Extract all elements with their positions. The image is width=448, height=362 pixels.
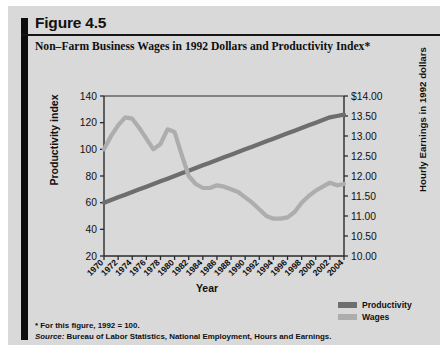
svg-text:60: 60 bbox=[86, 197, 98, 208]
y-ticks-left: 20406080100120140 bbox=[80, 91, 104, 262]
svg-text:80: 80 bbox=[86, 171, 98, 182]
svg-text:12.00: 12.00 bbox=[351, 171, 377, 182]
y-ticks-right: 10.0010.5011.0011.5012.0012.5013.0013.50… bbox=[344, 91, 383, 262]
legend-swatch-productivity bbox=[338, 302, 357, 308]
legend-label-productivity: Productivity bbox=[362, 300, 412, 310]
source-label: Source: bbox=[35, 332, 64, 341]
footnote-source: Source: Bureau of Labor Statistics, Nati… bbox=[35, 332, 425, 343]
svg-text:11.50: 11.50 bbox=[351, 191, 376, 202]
figure-footnotes: * For this figure, 1992 = 100. Source: B… bbox=[35, 321, 425, 342]
svg-text:13.50: 13.50 bbox=[351, 111, 377, 122]
chart-svg: 20406080100120140 10.0010.5011.0011.5012… bbox=[32, 86, 436, 301]
svg-text:10.50: 10.50 bbox=[351, 231, 377, 242]
svg-text:13.00: 13.00 bbox=[351, 131, 377, 142]
accent-bar bbox=[21, 18, 28, 340]
series-group bbox=[104, 115, 344, 219]
svg-text:$14.00: $14.00 bbox=[351, 91, 383, 102]
svg-text:11.00: 11.00 bbox=[351, 211, 376, 222]
figure-card: Figure 4.5 Non–Farm Business Wages in 19… bbox=[8, 6, 440, 345]
svg-text:100: 100 bbox=[80, 144, 97, 155]
chart-plot-area: Productivity index Hourly Earnings in 19… bbox=[32, 86, 436, 301]
figure-title: Non–Farm Business Wages in 1992 Dollars … bbox=[35, 39, 425, 54]
figure-divider bbox=[21, 34, 440, 36]
svg-text:10.00: 10.00 bbox=[351, 251, 377, 262]
svg-text:40: 40 bbox=[86, 224, 98, 235]
svg-text:120: 120 bbox=[80, 117, 97, 128]
footnote-note: * For this figure, 1992 = 100. bbox=[35, 321, 425, 332]
x-ticks: 1970197219741976197819801982198419861988… bbox=[85, 256, 346, 278]
figure-number: Figure 4.5 bbox=[35, 14, 106, 32]
axes-group bbox=[104, 96, 344, 256]
svg-text:2004: 2004 bbox=[325, 257, 346, 278]
svg-text:12.50: 12.50 bbox=[351, 151, 377, 162]
legend-item-productivity: Productivity bbox=[338, 300, 412, 310]
legend-swatch-wages bbox=[338, 314, 357, 320]
source-text: Bureau of Labor Statistics, National Emp… bbox=[64, 332, 331, 341]
svg-text:140: 140 bbox=[80, 91, 97, 102]
